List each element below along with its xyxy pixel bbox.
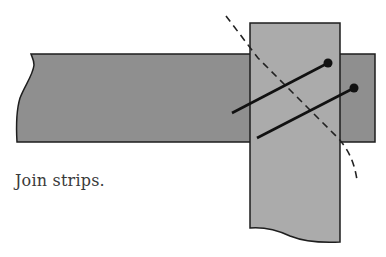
diagram-canvas: Join strips. [0, 0, 386, 257]
pin-head-icon [350, 84, 359, 93]
join-strips-illustration [0, 0, 386, 257]
caption: Join strips. [15, 171, 105, 190]
vertical-strip [250, 23, 340, 242]
pin-head-icon [324, 59, 333, 68]
